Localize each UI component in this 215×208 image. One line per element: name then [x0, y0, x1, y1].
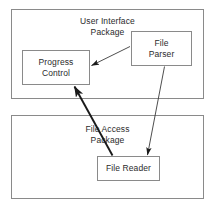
node-file-reader-label: File Reader	[106, 163, 151, 174]
package-diagram: User Interface Package File Access Packa…	[0, 0, 215, 208]
node-file-reader[interactable]: File Reader	[97, 156, 160, 181]
node-progress-control-label: Progress Control	[39, 57, 74, 79]
node-file-parser[interactable]: File Parser	[131, 31, 192, 66]
node-progress-control[interactable]: Progress Control	[22, 50, 90, 85]
package-file-access-label: File Access Package	[12, 124, 215, 146]
node-file-parser-label: File Parser	[149, 38, 175, 60]
